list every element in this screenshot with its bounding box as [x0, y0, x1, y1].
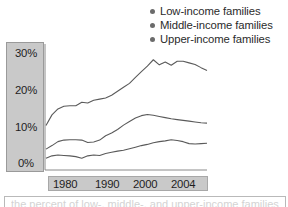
x-axis-tick-label: 2004: [171, 178, 195, 190]
bullet-dot-icon: [150, 37, 155, 42]
y-axis-tick-label: 10%: [7, 121, 45, 133]
legend-item-label: Middle-income families: [160, 19, 273, 32]
chart-legend: Low-income families Middle-income famili…: [150, 4, 288, 46]
figure-caption-text: the percent of low-, middle-, and upper-…: [11, 198, 279, 207]
y-axis-label-panel: 30% 20% 10% 0%: [6, 42, 44, 172]
legend-item-label: Low-income families: [160, 5, 260, 18]
x-axis-tick-label: 1990: [95, 178, 119, 190]
legend-item-middle-income: Middle-income families: [150, 18, 288, 32]
bullet-dot-icon: [150, 23, 155, 28]
y-axis-tick-label: 30%: [7, 47, 45, 59]
series-line: [46, 60, 207, 126]
figure-caption-strip: the percent of low-, middle-, and upper-…: [4, 196, 286, 207]
line-chart-svg: [44, 44, 209, 172]
series-line: [46, 140, 207, 159]
chart-plot-area: [44, 44, 209, 172]
y-axis-tick-label: 20%: [7, 84, 45, 96]
bullet-dot-icon: [150, 9, 155, 14]
series-line: [46, 114, 207, 149]
legend-item-low-income: Low-income families: [150, 4, 288, 18]
x-axis-tick-label: 2000: [133, 178, 157, 190]
x-axis-tick-label: 1980: [53, 178, 77, 190]
series-lines: [46, 60, 207, 158]
x-axis-label-panel: 1980 1990 2000 2004: [48, 176, 208, 191]
y-axis-tick-label: 0%: [7, 157, 45, 169]
